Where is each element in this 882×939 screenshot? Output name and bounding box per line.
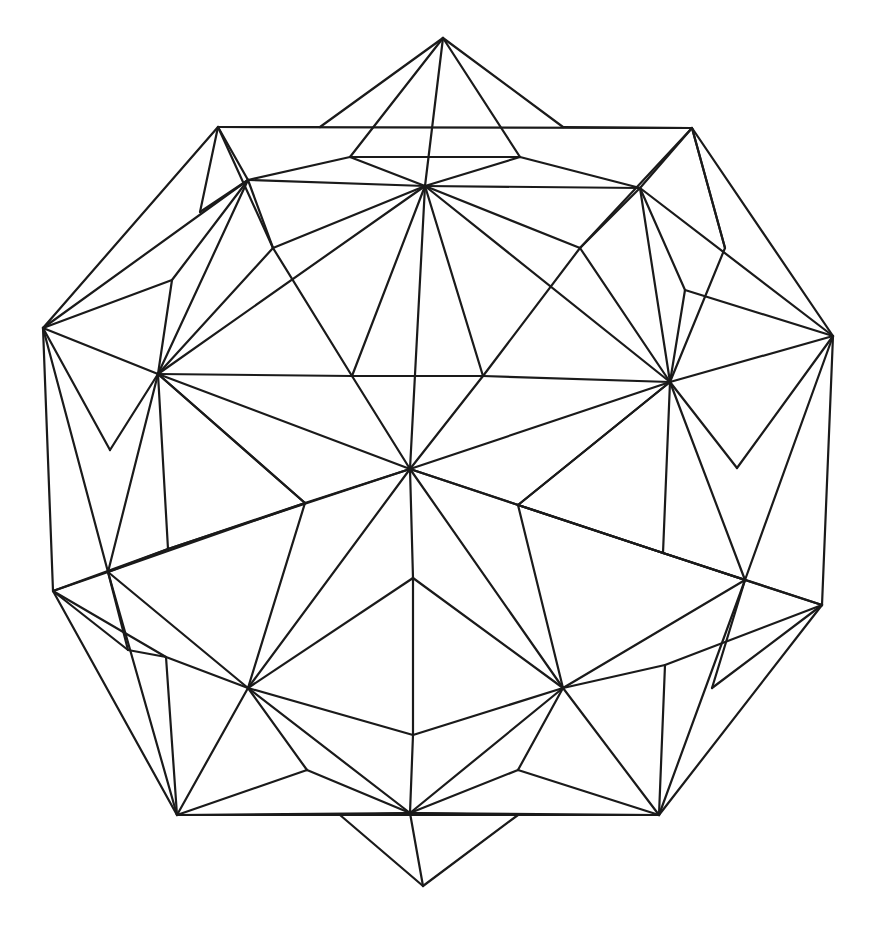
star-polyhedron-drawing: [0, 0, 882, 939]
edge-line: [158, 374, 410, 469]
edge-line: [425, 186, 580, 248]
edge-line: [410, 469, 413, 578]
edge-line: [670, 290, 685, 382]
edge-line: [670, 382, 737, 468]
edge-line: [640, 188, 685, 290]
edge-line: [43, 328, 158, 374]
edge-line: [177, 770, 307, 815]
edge-line: [158, 374, 352, 376]
edge-line: [518, 770, 659, 815]
edge-line: [108, 572, 248, 688]
edge-line: [670, 248, 725, 382]
edge-line: [248, 688, 410, 813]
edge-line: [43, 180, 248, 328]
edge-line: [352, 186, 425, 376]
edge-line: [410, 770, 518, 813]
edge-line: [410, 382, 670, 469]
edge-line: [425, 186, 483, 376]
edge-line: [248, 578, 413, 688]
edge-line: [685, 290, 833, 336]
edge-line: [425, 157, 520, 186]
edge-line: [410, 735, 413, 813]
edge-line: [248, 180, 273, 248]
edge-line: [659, 580, 745, 815]
edge-line: [108, 374, 158, 572]
edge-line: [425, 38, 443, 186]
edge-line: [423, 815, 518, 886]
edge-line: [43, 328, 53, 591]
edge-line: [563, 665, 665, 688]
edge-line: [483, 376, 670, 382]
edge-line: [425, 186, 670, 382]
edge-line: [158, 248, 273, 374]
edge-line: [177, 688, 248, 815]
edge-line: [518, 382, 670, 505]
edge-line: [692, 128, 725, 248]
edge-line: [248, 503, 305, 688]
edge-line: [248, 688, 413, 735]
edge-line: [320, 38, 443, 127]
edge-line: [53, 591, 177, 815]
edge-line: [340, 815, 423, 886]
edge-line: [248, 688, 307, 770]
edge-line: [483, 248, 580, 376]
edge-line: [640, 188, 670, 382]
edge-line: [670, 336, 833, 382]
edge-line: [745, 336, 833, 580]
edge-line: [248, 180, 425, 186]
edge-line: [218, 127, 692, 128]
edge-line: [425, 186, 640, 188]
edge-line: [158, 374, 168, 549]
edge-line: [410, 469, 563, 688]
edge-line: [443, 38, 520, 157]
edge-line: [822, 336, 833, 605]
edge-line: [410, 186, 425, 469]
edge-line: [43, 280, 172, 328]
edge-line: [108, 572, 128, 650]
edge-line: [352, 376, 410, 469]
edge-line: [663, 553, 745, 580]
edge-line: [273, 248, 352, 376]
edge-line: [43, 328, 108, 572]
edge-line: [563, 688, 659, 815]
edge-line: [158, 374, 305, 503]
edge-line: [350, 38, 443, 157]
edge-line: [166, 657, 248, 688]
edge-line: [108, 549, 168, 572]
edge-line: [53, 591, 166, 657]
edge-line: [307, 770, 410, 813]
edge-line: [520, 157, 640, 188]
edge-line: [172, 180, 248, 280]
edge-line: [580, 188, 640, 248]
edge-line: [692, 128, 833, 336]
edge-group: [43, 38, 833, 886]
edge-line: [640, 188, 833, 336]
edge-line: [443, 38, 563, 127]
edge-line: [350, 157, 425, 186]
edge-line: [670, 382, 745, 580]
edge-line: [200, 127, 218, 212]
edge-line: [43, 127, 218, 328]
edge-line: [410, 376, 483, 469]
edge-line: [43, 328, 110, 450]
edge-line: [410, 688, 563, 813]
edge-line: [663, 382, 670, 553]
edge-line: [737, 336, 833, 468]
edge-line: [410, 813, 423, 886]
edge-line: [166, 657, 177, 815]
edge-line: [248, 469, 410, 688]
edge-line: [580, 248, 670, 382]
edge-line: [248, 157, 350, 180]
edge-line: [110, 374, 158, 450]
edge-line: [659, 665, 665, 815]
